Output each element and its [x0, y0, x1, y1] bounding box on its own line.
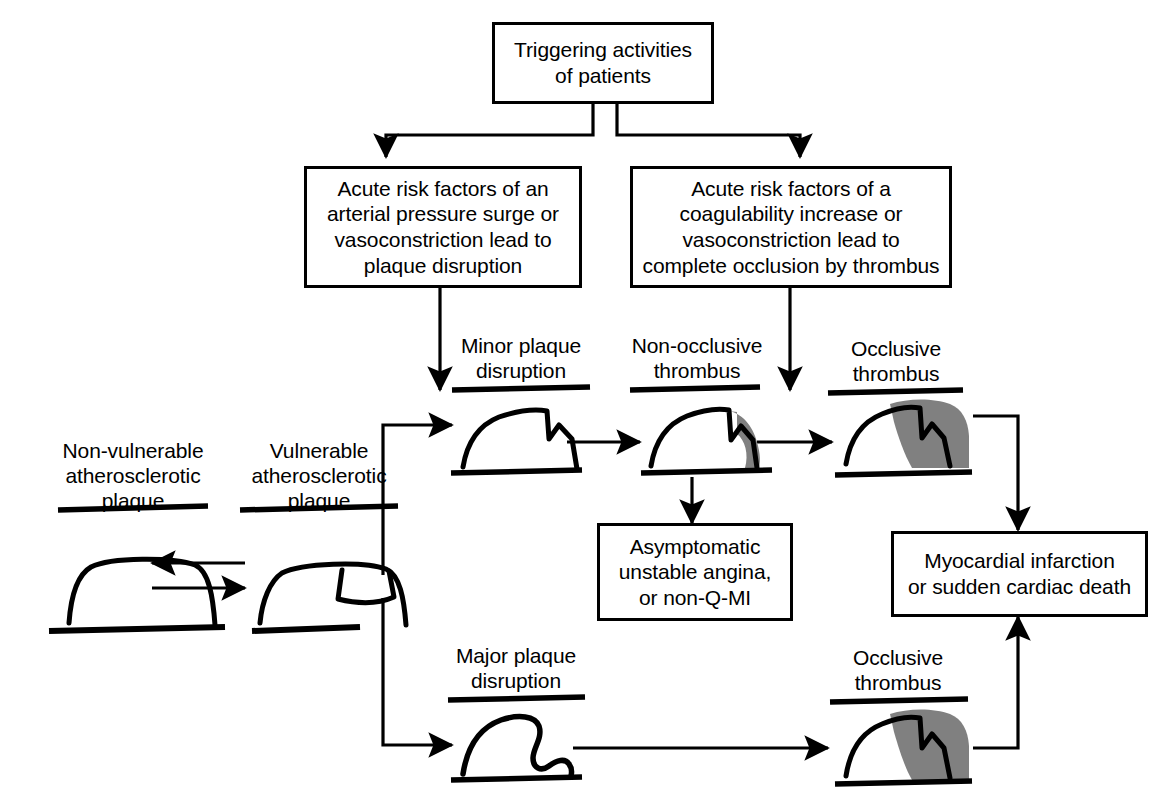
caption-non-vulnerable-plaque: Non-vulnerable atherosclerotic plaque — [48, 438, 218, 514]
occlusive-thrombus-top-figure — [838, 392, 983, 474]
box-triggering-activities: Triggering activities of patients — [492, 22, 714, 104]
vulnerable-plaque-figure — [250, 545, 440, 630]
underline-non-occlusive-thrombus — [630, 387, 760, 390]
caption-vulnerable-plaque: Vulnerable atherosclerotic plaque — [234, 438, 404, 514]
caption-minor-plaque-disruption: Minor plaque disruption — [448, 333, 594, 383]
underline-minor-plaque-disruption — [452, 387, 590, 390]
non-occlusive-thrombus-figure — [645, 400, 780, 475]
occlusive-thrombus-top-baseline — [832, 468, 977, 480]
arrow-trigger-to-left-risk — [386, 103, 593, 157]
caption-non-occlusive-thrombus: Non-occlusive thrombus — [624, 333, 770, 383]
non-occlusive-thrombus-baseline — [638, 466, 778, 478]
non-vulnerable-plaque-figure — [55, 545, 245, 630]
underline-major-plaque-disruption — [448, 697, 585, 700]
arrow-trigger-to-right-risk — [617, 103, 800, 157]
box-asymptomatic-unstable-angina: Asymptomatic unstable angina, or non-Q-M… — [597, 523, 793, 621]
caption-major-plaque-disruption: Major plaque disruption — [443, 643, 589, 693]
non-vulnerable-plaque-baseline — [45, 622, 230, 636]
caption-occlusive-thrombus-top: Occlusive thrombus — [828, 336, 964, 386]
caption-occlusive-thrombus-bottom: Occlusive thrombus — [830, 645, 966, 695]
major-plaque-disruption-figure — [455, 708, 590, 780]
occlusive-thrombus-bottom-figure — [838, 700, 983, 785]
minor-plaque-disruption-figure — [455, 405, 590, 475]
box-myocardial-infarction: Myocardial infarction or sudden cardiac … — [891, 531, 1148, 617]
vulnerable-plaque-baseline — [248, 622, 368, 636]
occlusive-thrombus-bottom-baseline — [832, 777, 977, 789]
minor-plaque-disruption-baseline — [448, 466, 588, 478]
flowchart-figure: Triggering activities of patients Acute … — [0, 0, 1165, 807]
box-acute-risk-factors-left: Acute risk factors of an arterial pressu… — [304, 166, 582, 288]
box-acute-risk-factors-right: Acute risk factors of a coagulability in… — [630, 166, 952, 288]
major-plaque-disruption-baseline — [448, 773, 588, 785]
